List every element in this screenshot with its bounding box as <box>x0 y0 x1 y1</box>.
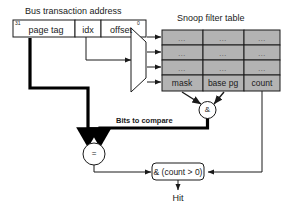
page-tag-bus <box>30 38 88 142</box>
address-bar-caption: Bus transaction address <box>25 7 122 16</box>
comparator-output-wire <box>94 165 151 172</box>
table-cell: ... <box>178 65 185 72</box>
table-cell: ... <box>219 35 226 42</box>
idx-to-mux-wire <box>86 37 131 60</box>
address-lsb-label: 0 <box>137 21 140 26</box>
table-cell: ... <box>178 50 185 57</box>
table-column-mask: mask <box>172 79 192 88</box>
count-to-final-wire <box>208 91 262 172</box>
table-cell: ... <box>219 50 226 57</box>
index-decoder-mux <box>131 28 146 92</box>
address-field-idx: idx <box>82 26 94 35</box>
final-gate-label: & (count > 0) <box>154 168 203 177</box>
table-cell: ... <box>258 35 265 42</box>
table-cell: ... <box>258 50 265 57</box>
address-field-offset: offset <box>110 26 132 35</box>
table-column-count: count <box>252 79 273 88</box>
comparator-label: = <box>92 150 97 158</box>
snoop-filter-table-caption: Snoop filter table <box>177 14 245 23</box>
hit-output-label: Hit <box>173 194 184 203</box>
address-field-page-tag: page tag <box>28 26 63 35</box>
table-cell: ... <box>219 65 226 72</box>
mask-basepg-to-and-wires <box>182 92 224 104</box>
table-cell: ... <box>178 35 185 42</box>
table-column-base-pg: base pg <box>208 79 238 88</box>
bits-to-compare-label: Bits to compare <box>116 117 173 125</box>
table-cell: ... <box>258 65 265 72</box>
mux-row-select-wires <box>147 37 161 82</box>
address-msb-label: 31 <box>15 21 21 26</box>
and-gate-label: & <box>205 106 210 114</box>
snoop-filter-diagram: Bus transaction address 31 0 page tag id… <box>0 0 283 205</box>
